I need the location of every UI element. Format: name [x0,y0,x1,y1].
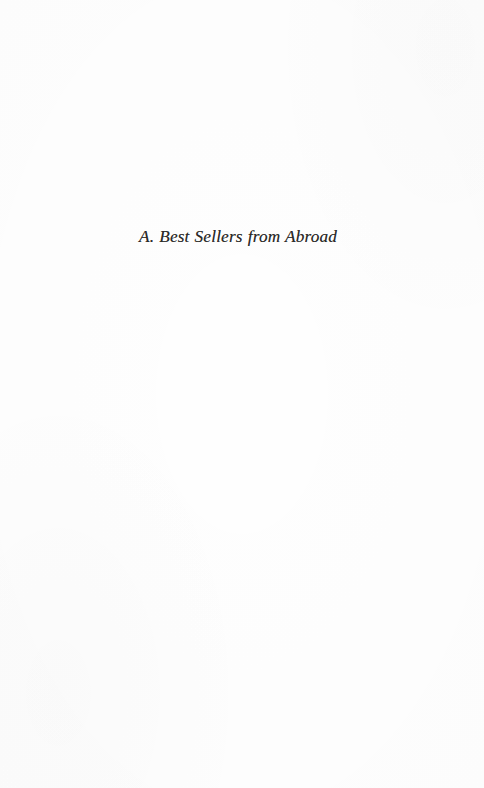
scanned-page: A. Best Sellers from Abroad [0,0,484,788]
section-heading: A. Best Sellers from Abroad [139,226,337,248]
section-heading-block: A. Best Sellers from Abroad [0,226,484,248]
